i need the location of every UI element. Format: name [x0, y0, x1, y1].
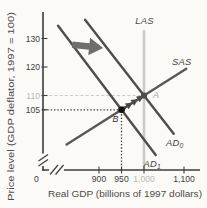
ad1-curve-label: AD1	[142, 158, 160, 170]
sas-curve-label: SAS	[172, 56, 192, 67]
point-a-dot	[141, 92, 147, 98]
ad0-curve-label: AD0	[165, 137, 183, 149]
point-b-label: B	[113, 114, 119, 124]
y-tick-label-110: 110	[26, 91, 40, 101]
ad-as-diagram: 1301201101059009501,0001,1000ABLASAD0AD1…	[0, 0, 207, 208]
point-a-label: A	[152, 90, 159, 100]
x-origin-label: 0	[34, 174, 39, 184]
chart-canvas: 1301201101059009501,0001,1000ABLASAD0AD1…	[0, 0, 207, 208]
point-b-dot	[118, 106, 125, 113]
x-tick-label-950: 950	[114, 174, 129, 184]
y-tick-label-130: 130	[26, 34, 41, 44]
x-tick-label-900: 900	[92, 174, 107, 184]
x-tick-label-1,100: 1,100	[173, 174, 195, 184]
x-tick-label-1,000: 1,000	[133, 174, 155, 184]
y-axis-title: Price level (GDP deflator, 1997 = 100)	[6, 12, 16, 201]
x-axis-title: Real GDP (billions of 1997 dollars)	[48, 189, 202, 199]
y-tick-label-120: 120	[26, 62, 41, 72]
las-curve-label: LAS	[135, 15, 154, 26]
ad0-curve	[85, 20, 174, 134]
y-tick-label-105: 105	[26, 105, 41, 115]
